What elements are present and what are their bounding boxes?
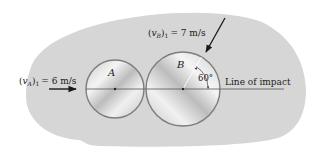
velocity-a-label: (vA)1= 6 m/s: [19, 76, 77, 87]
velocity-b-value: = 7 m/s: [170, 28, 206, 38]
angle-label: 60°: [198, 73, 213, 83]
line-of-impact-label: Line of impact: [225, 77, 291, 87]
disk-a-label: A: [107, 67, 115, 78]
disk-a-center: [114, 88, 116, 90]
velocity-a-value: = 6 m/s: [41, 76, 77, 86]
disk-b-center: [182, 88, 184, 90]
collision-diagram: A B (vA)1= 6 m/s (vB)1= 7 m/s 60° Line o…: [0, 0, 318, 159]
disk-b-label: B: [176, 59, 184, 70]
